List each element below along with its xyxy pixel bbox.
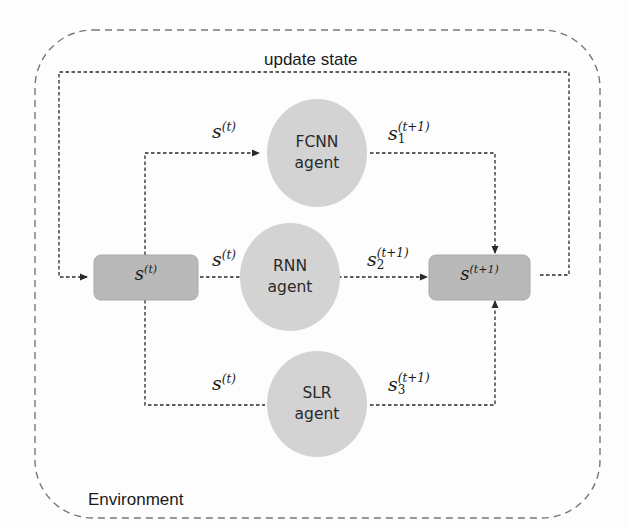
rnn-output-label: s(t+1)2 bbox=[367, 248, 409, 273]
slr-output-label: s(t+1)3 bbox=[388, 373, 430, 398]
rnn-agent-label: RNN agent bbox=[240, 256, 340, 298]
rnn-input-label: s(t) bbox=[212, 248, 236, 270]
arrow-state-to-slr bbox=[145, 300, 265, 405]
environment-label: Environment bbox=[88, 490, 183, 510]
slr-input-label: s(t) bbox=[212, 372, 236, 394]
state-box-label: s(t) bbox=[94, 263, 198, 284]
update-state-label: update state bbox=[264, 50, 358, 70]
fcnn-input-label: s(t) bbox=[212, 120, 236, 142]
next-state-box-label: s(t+1) bbox=[429, 263, 530, 284]
diagram-canvas: update state Environment s(t) s(t+1) FCN… bbox=[0, 0, 627, 527]
fcnn-output-label: s(t+1)1 bbox=[388, 122, 430, 147]
arrow-state-to-fcnn bbox=[145, 153, 259, 255]
fcnn-agent-label: FCNN agent bbox=[267, 132, 367, 174]
arrow-fcnn-to-next bbox=[370, 153, 495, 253]
slr-agent-label: SLR agent bbox=[267, 383, 367, 425]
